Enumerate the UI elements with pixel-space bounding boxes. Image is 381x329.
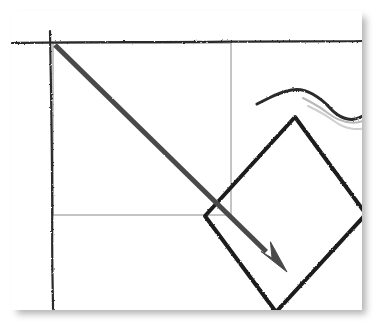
wave-curve-dark (257, 90, 367, 120)
sketch-artwork (0, 0, 381, 329)
arrow-diagonal-shaft (55, 45, 266, 252)
axis-horizontal-rule (12, 41, 362, 43)
arrow-diagonal-head-icon (261, 242, 287, 272)
sketch-canvas (0, 0, 381, 329)
wave-curve-light-upper (303, 98, 370, 123)
